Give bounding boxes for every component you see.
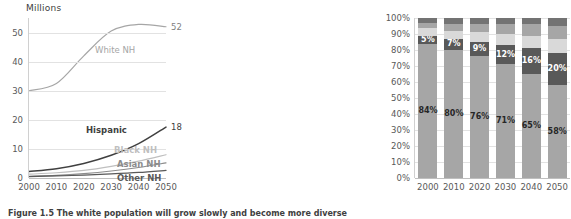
figure-caption: Figure 1.5 The white population will gro… — [8, 209, 378, 219]
y-tick-label: 90% — [383, 30, 410, 39]
x-tick-label: 2010 — [440, 183, 468, 192]
y-tick-label: 20% — [383, 142, 410, 151]
bar-segment-other-nh — [548, 18, 567, 26]
bar-segment-asian-nh — [470, 24, 489, 32]
bar-segment-other-nh — [496, 18, 515, 24]
line-series-white-nh — [29, 24, 166, 90]
bar-segment-label: 84% — [418, 107, 437, 115]
bar-2020: 76%9% — [470, 18, 489, 178]
bar-2040: 65%16% — [522, 18, 541, 178]
bar-2010: 80%7% — [444, 18, 463, 178]
y-tick-label: 10% — [383, 158, 410, 167]
bar-2050: 58%20% — [548, 18, 567, 178]
gridline — [29, 120, 166, 121]
y-tick-label: 100% — [383, 14, 410, 23]
end-value-label-white-nh: 52 — [171, 23, 182, 32]
stacked-bar-chart-panel: 84%5%80%7%76%9%71%12%65%16%58%20% 0%10%2… — [193, 0, 385, 200]
line-chart-panel: Millions 01020304050 2000201020202030204… — [0, 0, 192, 200]
bar-segment-black-nh — [444, 31, 463, 39]
y-tick-label: 50% — [383, 94, 410, 103]
y-tick-label: 40 — [0, 58, 23, 67]
bar-segment-black-nh — [548, 39, 567, 53]
x-tick-label: 2010 — [42, 183, 70, 192]
bar-segment-other-nh — [522, 18, 541, 24]
gridline — [29, 91, 166, 92]
series-label-hispanic: Hispanic — [86, 126, 127, 135]
series-label-black-nh: Black NH — [114, 146, 157, 155]
bar-segment-label: 9% — [470, 45, 489, 53]
x-tick-label: 2020 — [466, 183, 494, 192]
y-axis-line — [414, 18, 415, 178]
x-tick-label: 2040 — [125, 183, 153, 192]
bar-segment-other-nh — [418, 18, 437, 23]
bar-segment-black-nh — [522, 36, 541, 49]
x-tick-label: 2050 — [152, 183, 180, 192]
y-tick-label: 30% — [383, 126, 410, 135]
bar-segment-black-nh — [470, 32, 489, 42]
end-value-label-hispanic: 18 — [171, 123, 182, 132]
x-tick-label: 2000 — [15, 183, 43, 192]
bar-segment-label: 7% — [444, 40, 463, 48]
bar-segment-other-nh — [470, 18, 489, 24]
y-tick-label: 70% — [383, 62, 410, 71]
bar-2030: 71%12% — [496, 18, 515, 178]
y-tick-label: 40% — [383, 110, 410, 119]
y-axis-line — [28, 18, 29, 178]
bar-segment-label: 76% — [470, 113, 489, 121]
line-chart-title: Millions — [26, 3, 61, 13]
bar-segment-label: 71% — [496, 117, 515, 125]
series-label-asian-nh: Asian NH — [117, 160, 161, 169]
x-tick-label: 2040 — [517, 183, 545, 192]
bar-segment-label: 20% — [548, 65, 567, 73]
x-tick-label: 2030 — [491, 183, 519, 192]
series-label-other-nh: Other NH — [117, 174, 161, 183]
y-tick-label: 50 — [0, 29, 23, 38]
x-tick-label: 2020 — [70, 183, 98, 192]
bar-2000: 84%5% — [418, 18, 437, 178]
stacked-bar-plot-area: 84%5%80%7%76%9%71%12%65%16%58%20% — [415, 18, 570, 178]
x-tick-label: 2030 — [97, 183, 125, 192]
gridline — [29, 33, 166, 34]
bar-segment-label: 58% — [548, 128, 567, 136]
bar-segment-black-nh — [418, 28, 437, 36]
gridline — [29, 62, 166, 63]
bar-segment-label: 65% — [522, 122, 541, 130]
bar-segment-black-nh — [496, 34, 515, 45]
bar-segment-label: 16% — [522, 57, 541, 65]
gridline — [415, 178, 570, 179]
bar-segment-asian-nh — [444, 24, 463, 30]
series-label-white-nh: White NH — [95, 46, 135, 55]
y-tick-label: 30 — [0, 87, 23, 96]
y-tick-label: 20 — [0, 116, 23, 125]
x-tick-label: 2050 — [543, 183, 571, 192]
bar-segment-other-nh — [444, 18, 463, 24]
bar-segment-label: 12% — [496, 51, 515, 59]
bar-segment-asian-nh — [418, 23, 437, 28]
y-tick-label: 80% — [383, 46, 410, 55]
bar-segment-asian-nh — [522, 24, 541, 35]
bar-segment-label: 80% — [444, 110, 463, 118]
bar-segment-asian-nh — [496, 24, 515, 34]
y-tick-label: 0% — [383, 174, 410, 183]
y-tick-label: 10 — [0, 145, 23, 154]
x-tick-label: 2000 — [414, 183, 442, 192]
y-tick-label: 60% — [383, 78, 410, 87]
bar-segment-label: 5% — [418, 36, 437, 44]
bar-segment-asian-nh — [548, 26, 567, 39]
